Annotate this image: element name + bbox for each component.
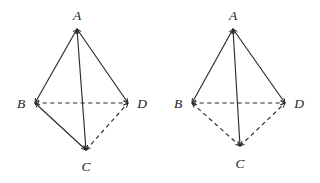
vertex-label-A: A: [72, 8, 82, 23]
vertex-label-A: A: [228, 8, 238, 23]
vertex-label-C: C: [235, 156, 245, 171]
edge-BC: [35, 103, 86, 150]
left-tetrahedron: [35, 29, 128, 150]
right-tetrahedron-labels: ABCD: [174, 8, 304, 171]
edge-AD: [233, 29, 285, 103]
vertex-label-D: D: [293, 96, 304, 111]
label-layer: ABCDABCD: [17, 8, 304, 174]
edge-AC: [77, 29, 86, 150]
vertex-label-B: B: [17, 96, 25, 111]
vertex-label-D: D: [136, 96, 147, 111]
tetrahedron-figure-canvas: ABCDABCD: [0, 0, 320, 183]
edge-CD: [86, 103, 128, 150]
edge-AB: [192, 29, 233, 103]
vertex-label-C: C: [81, 159, 91, 174]
edge-CD: [240, 103, 285, 146]
edge-AC: [233, 29, 240, 146]
edge-AB: [35, 29, 77, 103]
edge-BC: [192, 103, 240, 146]
right-tetrahedron: [192, 29, 285, 146]
vertex-label-B: B: [174, 96, 182, 111]
edge-tip-CD-0: [124, 103, 128, 107]
edge-AD: [77, 29, 128, 103]
diagram-layer: [35, 29, 285, 150]
